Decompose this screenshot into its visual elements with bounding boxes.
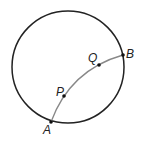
- label-p: P: [56, 85, 64, 99]
- point-b: [121, 53, 125, 57]
- circle: [12, 11, 124, 123]
- label-a: A: [42, 123, 51, 137]
- label-q: Q: [88, 51, 97, 65]
- circle-diagram: A P Q B: [0, 0, 141, 143]
- label-b: B: [126, 47, 134, 61]
- point-q: [97, 63, 101, 67]
